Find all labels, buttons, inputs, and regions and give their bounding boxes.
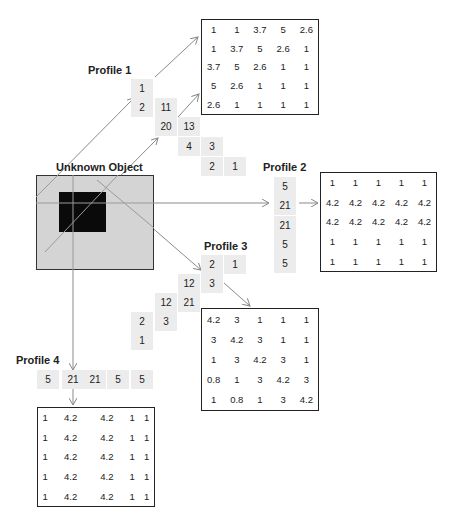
matrix-cell: 1 xyxy=(367,251,390,271)
matrix-cell: 4.2 xyxy=(367,193,390,213)
profile-2-value: 5 xyxy=(274,177,296,196)
profile-1-value: 4 xyxy=(178,137,200,156)
matrix-cell: 4.2 xyxy=(295,390,318,410)
matrix-cell: 3 xyxy=(295,370,318,390)
profile-1-value: 2 xyxy=(131,98,153,117)
matrix-cell: 4.2 xyxy=(367,212,390,232)
matrix-cell: 1 xyxy=(225,95,248,114)
matrix-cell: 4.2 xyxy=(53,447,89,467)
matrix-cell: 4.2 xyxy=(202,309,225,329)
matrix-cell: 0.8 xyxy=(225,390,248,410)
matrix-cell: 1 xyxy=(272,76,295,95)
matrix-cell: 1 xyxy=(367,232,390,252)
matrix-cell: 1 xyxy=(202,390,225,410)
profile-3-value: 12 xyxy=(178,274,200,293)
matrix-cell: 3 xyxy=(272,349,295,369)
matrix-cell: 4.2 xyxy=(89,486,125,506)
matrix-cell: 3 xyxy=(225,349,248,369)
profile-3-value: 2 xyxy=(201,255,223,274)
matrix-cell: 1 xyxy=(390,173,413,193)
matrix-cell: 4.2 xyxy=(89,447,125,467)
matrix-cell: 1 xyxy=(248,76,271,95)
profile-1-value: 2 xyxy=(201,157,223,176)
profile-3-matrix: 4.23111 34.2311 134.231 0.8134.23 10.813… xyxy=(201,308,319,411)
profile-3-value: 3 xyxy=(155,312,177,331)
matrix-cell: 1 xyxy=(38,486,53,506)
matrix-cell: 0.8 xyxy=(202,370,225,390)
matrix-cell: 5 xyxy=(248,39,271,58)
matrix-cell: 4.2 xyxy=(272,370,295,390)
matrix-cell: 1 xyxy=(321,232,344,252)
matrix-cell: 1 xyxy=(139,428,154,448)
matrix-cell: 4.2 xyxy=(53,408,89,428)
profile-2-value: 5 xyxy=(274,235,296,254)
matrix-cell: 1 xyxy=(139,408,154,428)
matrix-cell: 1 xyxy=(139,486,154,506)
matrix-cell: 4.2 xyxy=(248,349,271,369)
matrix-cell: 1 xyxy=(225,20,248,39)
profile-1-value: 3 xyxy=(201,137,223,156)
matrix-cell: 1 xyxy=(38,408,53,428)
matrix-cell: 1 xyxy=(272,95,295,114)
matrix-cell: 4.2 xyxy=(390,212,413,232)
profile-3-value: 2 xyxy=(131,312,153,331)
profile-2-label: Profile 2 xyxy=(263,161,306,173)
profile-1-matrix: 113.752.6 13.752.61 3.752.611 52.6111 2.… xyxy=(201,19,319,115)
matrix-cell: 4.2 xyxy=(53,428,89,448)
matrix-cell: 4.2 xyxy=(321,193,344,213)
matrix-cell: 1 xyxy=(202,20,225,39)
matrix-cell: 1 xyxy=(272,329,295,349)
matrix-cell: 1 xyxy=(38,428,53,448)
profile-1-value: 20 xyxy=(155,117,177,136)
profile-1-value: 1 xyxy=(131,79,153,98)
profile-3-value: 3 xyxy=(201,274,223,293)
profile-3-value: 21 xyxy=(178,293,200,312)
profile-3-value: 1 xyxy=(131,331,153,350)
matrix-cell: 1 xyxy=(38,447,53,467)
profile-4-matrix: 14.24.211 14.24.211 14.24.211 14.24.211 … xyxy=(37,407,155,507)
matrix-cell: 1 xyxy=(248,309,271,329)
matrix-cell: 1 xyxy=(272,309,295,329)
matrix-cell: 3 xyxy=(248,370,271,390)
profile-4-value: 21 xyxy=(84,370,106,389)
matrix-cell: 1 xyxy=(295,309,318,329)
matrix-cell: 1 xyxy=(139,467,154,487)
matrix-cell: 1 xyxy=(295,349,318,369)
matrix-cell: 1 xyxy=(202,349,225,369)
profile-4-value: 5 xyxy=(107,370,129,389)
matrix-cell: 1 xyxy=(248,95,271,114)
matrix-cell: 1 xyxy=(367,173,390,193)
matrix-cell: 2.6 xyxy=(248,58,271,77)
matrix-cell: 1 xyxy=(321,173,344,193)
profile-4-value: 5 xyxy=(37,370,59,389)
matrix-cell: 1 xyxy=(413,173,436,193)
matrix-cell: 1 xyxy=(390,251,413,271)
matrix-cell: 1 xyxy=(344,232,367,252)
profile-3-label: Profile 3 xyxy=(204,240,247,252)
profile-3-value: 1 xyxy=(224,255,246,274)
matrix-cell: 3 xyxy=(225,309,248,329)
profile-1-value: 1 xyxy=(224,157,246,176)
matrix-cell: 4.2 xyxy=(413,212,436,232)
matrix-cell: 1 xyxy=(272,58,295,77)
profile-2-value: 21 xyxy=(274,196,296,215)
profile-1-value: 11 xyxy=(155,98,177,117)
matrix-cell: 4.2 xyxy=(53,486,89,506)
profile-1-label: Profile 1 xyxy=(88,64,131,76)
matrix-cell: 1 xyxy=(413,232,436,252)
matrix-cell: 1 xyxy=(321,251,344,271)
matrix-cell: 5 xyxy=(272,20,295,39)
profile-2-matrix: 11111 4.24.24.24.24.2 4.24.24.24.24.2 11… xyxy=(320,172,437,272)
matrix-cell: 1 xyxy=(295,95,318,114)
matrix-cell: 5 xyxy=(225,58,248,77)
profile-1-value: 13 xyxy=(178,117,200,136)
matrix-cell: 4.2 xyxy=(344,193,367,213)
matrix-cell: 3.7 xyxy=(248,20,271,39)
matrix-cell: 2.6 xyxy=(202,95,225,114)
matrix-cell: 1 xyxy=(295,76,318,95)
matrix-cell: 3.7 xyxy=(225,39,248,58)
matrix-cell: 1 xyxy=(344,173,367,193)
matrix-cell: 1 xyxy=(125,486,140,506)
matrix-cell: 1 xyxy=(38,467,53,487)
matrix-cell: 1 xyxy=(344,251,367,271)
